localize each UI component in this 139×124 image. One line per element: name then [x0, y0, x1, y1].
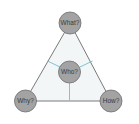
node-why: Why?	[15, 90, 37, 112]
node-who: Who?	[59, 61, 81, 83]
triangle-diagram: What? Who? Why? How?	[0, 0, 139, 124]
node-what: What?	[59, 12, 81, 34]
node-why-label: Why?	[17, 97, 34, 105]
node-what-label: What?	[61, 19, 80, 26]
node-how-label: How?	[103, 97, 120, 104]
node-who-label: Who?	[61, 68, 78, 75]
node-how: How?	[100, 90, 122, 112]
